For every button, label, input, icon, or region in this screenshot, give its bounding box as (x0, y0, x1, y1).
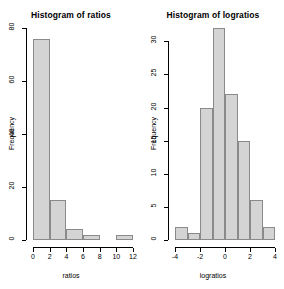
x-axis-tick (66, 248, 67, 252)
x-axis-tick (100, 248, 101, 252)
chart-title-ratios: Histogram of ratios (0, 10, 142, 20)
y-axis-tick (164, 141, 168, 142)
chart-panel-ratios: Histogram of ratios 020406080024681012 r… (0, 0, 142, 289)
x-axis-tick (175, 248, 176, 252)
y-axis-label-logratios: Frequency (150, 111, 157, 157)
figure-canvas: Histogram of ratios 020406080024681012 r… (0, 0, 284, 289)
y-axis-tick-label: 25 (150, 63, 157, 83)
y-axis-tick (164, 207, 168, 208)
x-axis-tick-label: -4 (165, 253, 185, 260)
y-axis-tick-label: 10 (150, 162, 157, 182)
y-axis-tick-label: 5 (150, 195, 157, 215)
x-axis-tick (250, 248, 251, 252)
x-axis-tick-label: 0 (215, 253, 235, 260)
bars-container-logratios (175, 28, 275, 240)
histogram-bar (116, 235, 133, 240)
y-axis-tick-label: 20 (8, 176, 15, 196)
histogram-bar (188, 233, 201, 240)
plot-area-ratios (33, 28, 133, 240)
plot-area-logratios (175, 28, 275, 240)
histogram-bar (66, 229, 83, 240)
chart-title-logratios: Histogram of logratios (142, 10, 284, 20)
y-axis-tick (22, 134, 26, 135)
bars-container-ratios (33, 28, 133, 240)
histogram-bar (83, 235, 100, 240)
x-axis-tick (83, 248, 84, 252)
y-axis-line (26, 28, 27, 240)
y-axis-tick-label: 30 (150, 30, 157, 50)
x-axis-tick-label: -2 (190, 253, 210, 260)
histogram-bar (250, 200, 263, 240)
y-axis-tick (164, 240, 168, 241)
histogram-bar (50, 200, 67, 240)
histogram-bar (263, 227, 276, 240)
y-axis-tick (164, 41, 168, 42)
y-axis-tick (164, 74, 168, 75)
y-axis-tick (164, 174, 168, 175)
y-axis-tick (22, 81, 26, 82)
chart-panel-logratios: Histogram of logratios 051015202530-4-20… (142, 0, 284, 289)
y-axis-tick-label: 80 (8, 17, 15, 37)
y-axis-line (168, 41, 169, 240)
x-axis-tick (33, 248, 34, 252)
y-axis-tick-label: 60 (8, 70, 15, 90)
histogram-bar (213, 28, 226, 240)
x-axis-tick (50, 248, 51, 252)
x-axis-tick (200, 248, 201, 252)
y-axis-tick (22, 187, 26, 188)
histogram-bar (225, 94, 238, 240)
x-axis-tick (275, 248, 276, 252)
x-axis-tick-label: 12 (123, 253, 143, 260)
histogram-bar (33, 39, 50, 240)
y-axis-tick (22, 240, 26, 241)
y-axis-tick-label: 0 (8, 229, 15, 249)
x-axis-tick-label: 2 (240, 253, 260, 260)
x-axis-tick (133, 248, 134, 252)
y-axis-label-ratios: Frequency (8, 111, 15, 157)
y-axis-tick (22, 28, 26, 29)
histogram-bar (175, 227, 188, 240)
y-axis-tick (164, 108, 168, 109)
y-axis-tick-label: 0 (150, 229, 157, 249)
x-axis-label-logratios: logratios (142, 272, 284, 279)
x-axis-label-ratios: ratios (0, 272, 142, 279)
histogram-bar (238, 141, 251, 240)
x-axis-tick (225, 248, 226, 252)
histogram-bar (200, 108, 213, 241)
x-axis-tick-label: 4 (265, 253, 284, 260)
x-axis-tick (116, 248, 117, 252)
